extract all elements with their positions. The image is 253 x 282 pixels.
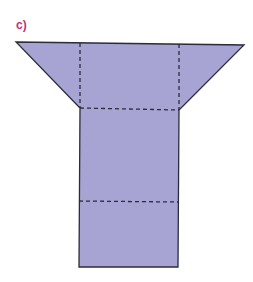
net-outline <box>16 42 244 267</box>
net-diagram <box>0 0 253 282</box>
